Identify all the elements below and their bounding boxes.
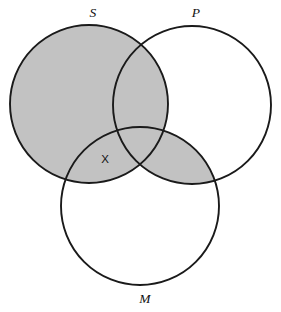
circle-label-p: P <box>191 5 200 20</box>
venn-diagram-root: S P M X <box>0 0 281 312</box>
region-mark-x: X <box>101 153 109 165</box>
venn-diagram-canvas: S P M X <box>0 0 281 312</box>
circle-label-s: S <box>90 5 97 20</box>
circle-label-m: M <box>138 291 151 306</box>
